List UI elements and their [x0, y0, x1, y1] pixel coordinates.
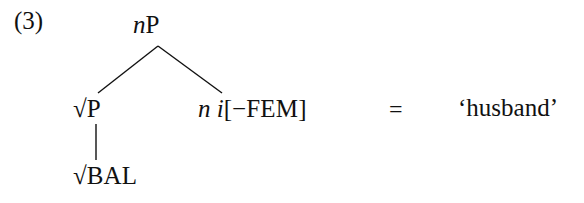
tree-node-exponent: n i[−FEM] — [198, 96, 306, 121]
node-root-p-label: P — [87, 95, 101, 122]
exponent-head-n: n — [198, 95, 211, 122]
tree-node-root-bal: √BAL — [73, 163, 137, 188]
gloss-text: ‘husband’ — [458, 95, 558, 120]
node-np-italic-n: n — [133, 11, 146, 38]
radical-icon: √ — [73, 95, 87, 122]
feature-bracket-close: ] — [298, 95, 306, 122]
tree-node-np: nP — [133, 12, 159, 37]
feature-bracket-open: [ — [224, 95, 232, 122]
radical-icon: √ — [73, 162, 87, 189]
feature-value-minus: − — [232, 95, 246, 122]
example-number: (3) — [14, 8, 43, 33]
feature-name-fem: FEM — [246, 95, 298, 122]
syntax-tree-figure: (3) nP √P √BAL n i[−FEM] = ‘husband’ — [0, 0, 584, 203]
equals-sign: = — [389, 97, 403, 121]
exponent-index-i: i — [217, 95, 224, 122]
node-root-bal-label: BAL — [87, 162, 138, 189]
node-np-roman-p: P — [146, 11, 160, 38]
branch-line-right — [158, 46, 222, 93]
branch-line-left — [98, 46, 158, 93]
tree-node-root-p: √P — [73, 96, 101, 121]
